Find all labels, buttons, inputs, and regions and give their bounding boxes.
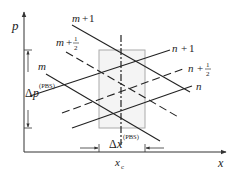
svg-text:Δ: Δ	[109, 137, 117, 151]
svg-text:p: p	[32, 86, 39, 100]
y-axis-label: p	[11, 18, 19, 33]
svg-text:2: 2	[206, 70, 210, 78]
svg-text:+: +	[197, 62, 203, 74]
svg-text:c: c	[121, 163, 124, 171]
svg-text:1: 1	[74, 35, 78, 43]
label-x-center: x c	[114, 156, 124, 171]
label-m-plus-1: m + 1	[72, 12, 95, 24]
svg-text:x: x	[116, 137, 123, 151]
svg-text:m: m	[56, 36, 64, 48]
x-axis-label: x	[217, 156, 224, 170]
svg-text:x: x	[114, 156, 120, 168]
label-n-plus-half: n + 1 2	[188, 61, 211, 78]
label-n: n	[196, 80, 202, 92]
label-n-plus-1: n + 1	[172, 42, 195, 54]
diagram-canvas: p x m + 1 m + 1 2 m n + 1 n + 1 2 n Δ p …	[0, 0, 250, 175]
svg-text:+: +	[82, 12, 88, 24]
svg-text:1: 1	[189, 42, 195, 54]
svg-text:(PBS): (PBS)	[123, 133, 139, 141]
svg-text:+: +	[66, 36, 72, 48]
svg-text:n: n	[172, 42, 178, 54]
label-m: m	[38, 60, 46, 72]
svg-text:m: m	[72, 12, 80, 24]
label-m-plus-half: m + 1 2	[56, 35, 79, 52]
label-delta-x: Δ x (PBS)	[109, 133, 139, 151]
label-delta-p: Δ p (PBS)	[25, 82, 55, 100]
svg-text:2: 2	[74, 44, 78, 52]
svg-text:1: 1	[206, 61, 210, 69]
svg-text:1: 1	[89, 12, 95, 24]
svg-text:Δ: Δ	[25, 86, 33, 100]
svg-text:+: +	[181, 42, 187, 54]
svg-text:(PBS): (PBS)	[39, 82, 55, 90]
svg-text:n: n	[188, 62, 194, 74]
